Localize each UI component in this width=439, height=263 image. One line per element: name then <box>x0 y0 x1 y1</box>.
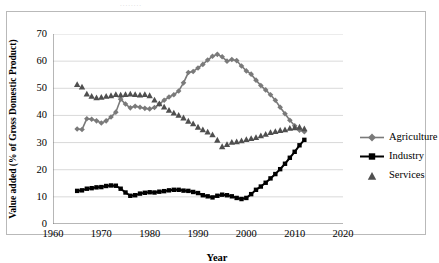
series-canvas <box>53 34 343 224</box>
chart-frame: Value added (% of Gross Domestic Product… <box>6 11 426 235</box>
y-tick-label: 50 <box>21 83 47 93</box>
x-tick-label: 1960 <box>33 228 73 239</box>
x-axis-title: Year <box>157 252 277 263</box>
y-tick-label: 20 <box>21 165 47 175</box>
legend-item-industry[interactable]: Industry <box>359 147 439 166</box>
y-axis-title: Value added (% of Gross Domestic Product… <box>5 36 21 222</box>
triangle-marker-icon <box>359 166 385 185</box>
legend-item-agriculture[interactable]: Agriculture <box>359 128 439 147</box>
legend-label: Agriculture <box>389 131 437 142</box>
legend-label: Services <box>389 169 425 180</box>
legend-item-services[interactable]: Services <box>359 166 439 185</box>
x-tick-label: 1970 <box>81 228 121 239</box>
x-tick-label: 2000 <box>226 228 266 239</box>
legend-label: Industry <box>389 150 424 161</box>
x-tick-label: 2020 <box>323 228 363 239</box>
y-tick-label: 60 <box>21 56 47 66</box>
page-bleed-text: ........ <box>120 0 320 8</box>
square-marker-icon <box>359 147 385 166</box>
y-tick-label: 70 <box>21 29 47 39</box>
x-tick-label: 1990 <box>178 228 218 239</box>
diamond-marker-icon <box>359 128 385 147</box>
x-tick-label: 2010 <box>275 228 315 239</box>
x-tick-label: 1980 <box>130 228 170 239</box>
series-agriculture <box>74 52 307 135</box>
plot-area <box>53 34 343 224</box>
y-tick-label: 40 <box>21 110 47 120</box>
y-tick-label: 30 <box>21 138 47 148</box>
y-axis-title-text: Value added (% of Gross Domestic Product… <box>8 39 18 218</box>
y-tick-label: 10 <box>21 192 47 202</box>
chart-legend: AgricultureIndustryServices <box>359 128 439 185</box>
